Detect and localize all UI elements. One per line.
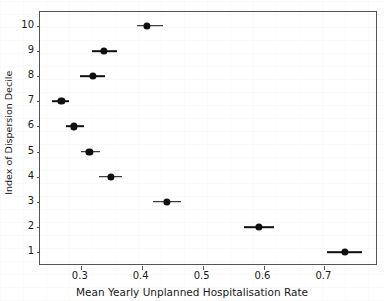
x-axis-tick-0.5: 0.5 — [194, 271, 210, 281]
y-tick-mark — [37, 252, 41, 253]
x-tick-mark — [81, 266, 82, 270]
y-axis-tick-9: 9 — [28, 45, 34, 55]
x-tick-mark — [324, 266, 325, 270]
y-tick-mark — [37, 126, 41, 127]
x-axis-tick-0.6: 0.6 — [255, 271, 271, 281]
data-point-decile-10 — [144, 22, 151, 29]
x-axis-tick-0.3: 0.3 — [72, 271, 88, 281]
data-point-decile-9 — [100, 47, 107, 54]
y-axis-tick-8: 8 — [28, 70, 34, 80]
chart-figure: Index of Dispersion Decile 10987654321 0… — [0, 0, 384, 301]
y-axis-tick-1: 1 — [28, 246, 34, 256]
x-axis-tick-0.7: 0.7 — [315, 271, 331, 281]
plot-area — [39, 11, 377, 265]
y-axis-tick-10: 10 — [21, 20, 34, 30]
data-point-decile-2 — [255, 223, 262, 230]
x-tick-mark — [203, 266, 204, 270]
x-axis-label: Mean Yearly Unplanned Hospitalisation Ra… — [0, 287, 384, 298]
y-axis-tick-2: 2 — [28, 221, 34, 231]
x-tick-mark — [264, 266, 265, 270]
y-axis-tick-5: 5 — [28, 146, 34, 156]
y-tick-mark — [37, 152, 41, 153]
data-point-decile-3 — [164, 198, 171, 205]
y-tick-mark — [37, 177, 41, 178]
y-axis-label-container: Index of Dispersion Decile — [2, 0, 16, 265]
data-point-decile-8 — [89, 73, 96, 80]
data-point-decile-7 — [58, 98, 65, 105]
y-axis-label: Index of Dispersion Decile — [4, 71, 14, 195]
data-point-decile-5 — [86, 148, 93, 155]
y-axis-tick-4: 4 — [28, 171, 34, 181]
y-axis-tick-7: 7 — [28, 95, 34, 105]
y-tick-mark — [37, 26, 41, 27]
y-axis-tick-3: 3 — [28, 196, 34, 206]
data-point-decile-6 — [71, 123, 78, 130]
data-point-decile-4 — [107, 173, 114, 180]
data-point-decile-1 — [342, 249, 349, 256]
y-tick-mark — [37, 202, 41, 203]
y-tick-mark — [37, 227, 41, 228]
y-tick-mark — [37, 76, 41, 77]
y-axis-tick-6: 6 — [28, 120, 34, 130]
x-tick-mark — [142, 266, 143, 270]
y-tick-mark — [37, 51, 41, 52]
x-axis-tick-0.4: 0.4 — [133, 271, 149, 281]
y-tick-mark — [37, 101, 41, 102]
